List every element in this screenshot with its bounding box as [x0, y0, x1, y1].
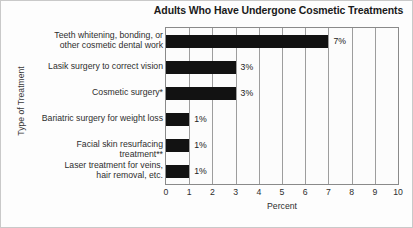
x-axis-title: Percent	[165, 201, 399, 211]
x-axis-tick: 5	[280, 187, 285, 197]
x-axis-tick: 4	[256, 187, 261, 197]
x-axis-tick: 1	[187, 187, 192, 197]
category-label: Bariatric surgery for weight loss	[37, 113, 163, 123]
gridline	[352, 28, 353, 184]
gridline	[189, 28, 190, 184]
category-label: Lasik surgery to correct vision	[37, 61, 163, 71]
bar-value-label: 1%	[194, 139, 207, 152]
bar	[166, 87, 236, 100]
x-axis-tick: 8	[349, 187, 354, 197]
gridline	[212, 28, 213, 184]
gridline	[259, 28, 260, 184]
category-label: Cosmetic surgery*	[37, 87, 163, 97]
bar	[166, 165, 189, 178]
bar-value-label: 1%	[194, 165, 207, 178]
x-axis-tick: 0	[164, 187, 169, 197]
x-axis-tick: 7	[326, 187, 331, 197]
bar	[166, 113, 189, 126]
x-axis-tick-list: 012345678910	[165, 187, 399, 201]
bar	[166, 139, 189, 152]
y-axis-title: Type of Treatment	[16, 51, 26, 151]
gridline	[282, 28, 283, 184]
x-axis-tick: 10	[393, 187, 403, 197]
category-label: Laser treatment for veins, hair removal,…	[37, 160, 163, 181]
category-label: Facial skin resurfacing treatment**	[37, 139, 163, 160]
x-axis-tick: 2	[210, 187, 215, 197]
chart-figure: Adults Who Have Undergone Cosmetic Treat…	[0, 0, 413, 228]
x-axis-tick: 6	[303, 187, 308, 197]
bar-value-label: 1%	[194, 113, 207, 126]
gridline	[305, 28, 306, 184]
bar-value-label: 3%	[241, 61, 254, 74]
category-label-list: Teeth whitening, bonding, or other cosme…	[37, 27, 163, 185]
plot-area: 7%3%3%1%1%1%	[165, 27, 399, 185]
x-axis-tick: 3	[233, 187, 238, 197]
gridline	[236, 28, 237, 184]
bar	[166, 35, 328, 48]
bar	[166, 61, 236, 74]
gridline	[328, 28, 329, 184]
bar-value-label: 7%	[333, 35, 346, 48]
bar-value-label: 3%	[241, 87, 254, 100]
gridline	[375, 28, 376, 184]
category-label: Teeth whitening, bonding, or other cosme…	[37, 30, 163, 51]
page-title: Adults Who Have Undergone Cosmetic Treat…	[151, 4, 406, 16]
x-axis-tick: 9	[372, 187, 377, 197]
